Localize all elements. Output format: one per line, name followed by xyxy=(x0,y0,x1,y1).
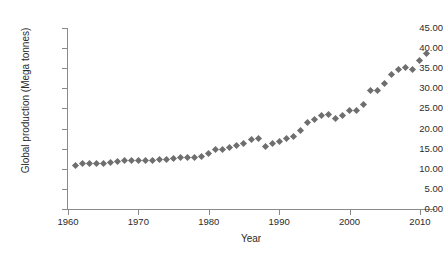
x-tick-mark xyxy=(279,210,280,215)
x-tick-mark xyxy=(138,210,139,215)
x-tick-mark xyxy=(420,210,421,215)
x-tick-label: 1990 xyxy=(259,217,299,227)
x-tick-label: 1980 xyxy=(189,217,229,227)
x-axis-line xyxy=(67,209,435,210)
x-tick-label: 1970 xyxy=(118,217,158,227)
x-tick-mark xyxy=(209,210,210,215)
y-tick-mark xyxy=(62,169,67,170)
y-tick-mark xyxy=(62,149,67,150)
x-tick-label: 2010 xyxy=(400,217,440,227)
x-axis-title: Year xyxy=(67,233,435,244)
y-tick-mark xyxy=(62,189,67,190)
y-tick-mark xyxy=(62,108,67,109)
y-tick-mark xyxy=(62,48,67,49)
y-tick-mark xyxy=(62,129,67,130)
y-tick-mark xyxy=(62,28,67,29)
x-tick-label: 1960 xyxy=(48,217,88,227)
plot-area xyxy=(68,28,434,209)
x-tick-mark xyxy=(350,210,351,215)
y-tick-mark xyxy=(62,68,67,69)
x-tick-label: 2000 xyxy=(330,217,370,227)
scatter-chart: 0.005.0010.0015.0020.0025.0030.0035.0040… xyxy=(0,0,443,257)
y-tick-mark xyxy=(62,88,67,89)
x-tick-mark xyxy=(68,210,69,215)
y-tick-mark xyxy=(62,209,67,210)
y-axis-title: Global production (Mega tonnes) xyxy=(20,6,31,196)
